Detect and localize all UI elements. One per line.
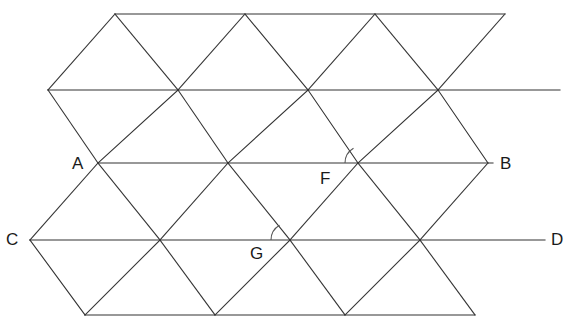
diagonal-down-left: [48, 14, 115, 90]
diagonal-down-left: [160, 163, 228, 240]
diagonal-down-left: [420, 163, 488, 240]
diagonal-down-right: [245, 14, 308, 90]
diagonal-down-left: [85, 240, 160, 315]
diagonal-down-left: [438, 14, 505, 90]
diagonal-down-right: [308, 90, 358, 163]
diagonal-down-right: [228, 163, 290, 240]
diagonal-down-left: [30, 163, 98, 240]
diagonal-down-right: [438, 90, 488, 163]
diagonal-down-right: [30, 240, 85, 315]
diagonal-down-left: [308, 14, 375, 90]
vertex-label-b: B: [500, 155, 511, 172]
diagonal-down-left: [345, 240, 420, 315]
diagonal-down-right: [290, 240, 345, 315]
diagonal-down-left: [98, 90, 178, 163]
diagonal-down-left: [178, 14, 245, 90]
angle-arc-g: [271, 225, 280, 240]
vertex-label-a: A: [72, 155, 83, 172]
diagonal-down-left: [358, 90, 438, 163]
diagonal-down-right: [160, 240, 215, 315]
geometry-figure: ABCDFG: [0, 0, 575, 327]
vertex-label-g: G: [250, 245, 263, 262]
vertex-label-d: D: [551, 231, 563, 248]
lattice-lines-group: [30, 14, 560, 315]
vertex-label-f: F: [320, 170, 330, 187]
diagonal-down-right: [178, 90, 228, 163]
angle-arcs-group: [271, 148, 354, 240]
diagonal-down-right: [358, 163, 420, 240]
diagonal-down-right: [48, 90, 98, 163]
diagonal-down-right: [420, 240, 475, 315]
vertex-label-c: C: [6, 231, 18, 248]
diagonal-down-right: [115, 14, 178, 90]
diagonal-down-right: [375, 14, 438, 90]
lattice-svg: [0, 0, 575, 327]
diagonal-down-left: [228, 90, 308, 163]
diagonal-down-right: [98, 163, 160, 240]
